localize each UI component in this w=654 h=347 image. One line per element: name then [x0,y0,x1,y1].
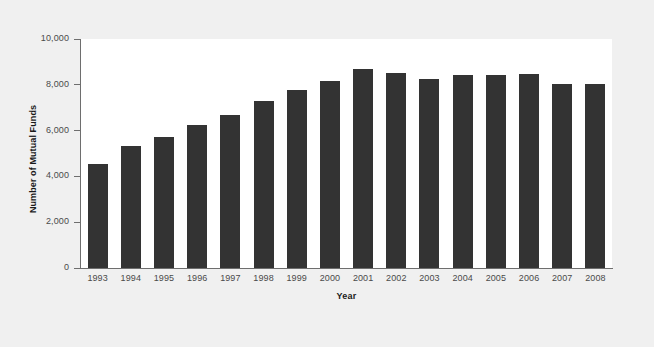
bar [154,137,174,268]
bar [88,164,108,268]
bar [353,69,373,268]
x-axis-line [80,268,613,269]
bar-series [81,39,612,268]
bar-slot [81,39,114,268]
x-axis-tick-label: 2008 [575,273,615,283]
bar-slot [181,39,214,268]
bar [453,75,473,268]
bar-slot [579,39,612,268]
bar [585,84,605,268]
bar-slot [413,39,446,268]
bar-slot [347,39,380,268]
y-axis-tick [74,84,81,85]
x-axis-title: Year [81,291,612,301]
bar-slot [512,39,545,268]
bar [220,115,240,268]
bar [187,125,207,268]
y-axis-tick-label: 0 [9,263,69,272]
bar [386,73,406,268]
bar [121,146,141,268]
y-axis-tick-label: 4,000 [9,171,69,180]
bar-slot [214,39,247,268]
bar-slot [546,39,579,268]
y-axis-tick-label: 8,000 [9,80,69,89]
y-axis-tick [74,222,81,223]
y-axis-tick [74,176,81,177]
bar [287,90,307,268]
y-axis-tick-label: 6,000 [9,126,69,135]
bar-slot [479,39,512,268]
bar-slot [114,39,147,268]
bar [320,81,340,268]
bar [254,101,274,268]
y-axis-tick [74,39,81,40]
y-axis-tick-label: 10,000 [9,34,69,43]
bar [419,79,439,268]
bar-slot [313,39,346,268]
y-axis-title: Number of Mutual Funds [28,79,38,239]
y-axis-tick-label: 2,000 [9,217,69,226]
bar [552,84,572,268]
bar [486,75,506,268]
y-axis-tick [74,130,81,131]
bar-slot [446,39,479,268]
bar-chart-figure: 02,0004,0006,0008,00010,000 Number of Mu… [0,0,654,347]
bar-slot [280,39,313,268]
bar-slot [380,39,413,268]
y-axis-tick [74,268,81,269]
bar-slot [247,39,280,268]
bar [519,74,539,268]
bar-slot [147,39,180,268]
